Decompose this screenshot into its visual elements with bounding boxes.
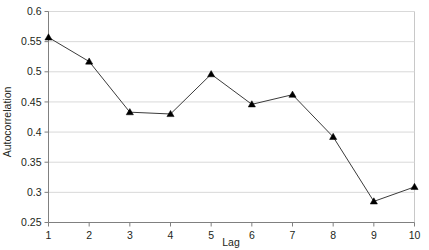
x-tick-label: 2 bbox=[86, 229, 92, 241]
x-tick-label: 1 bbox=[46, 229, 52, 241]
chart-canvas: 0.250.30.350.40.450.50.550.6 12345678910… bbox=[0, 0, 429, 250]
y-tick-label: 0.45 bbox=[21, 96, 42, 108]
y-tick-label: 0.35 bbox=[21, 156, 42, 168]
y-tick-label: 0.55 bbox=[21, 35, 42, 47]
y-tick-label: 0.25 bbox=[21, 216, 42, 228]
x-tick-label: 9 bbox=[371, 229, 377, 241]
x-tick-label: 4 bbox=[168, 229, 174, 241]
y-tick-label: 0.3 bbox=[27, 186, 42, 198]
chart-background bbox=[0, 0, 429, 250]
x-tick-label: 7 bbox=[290, 229, 296, 241]
y-axis-title: Autocorrelation bbox=[1, 87, 13, 158]
x-tick-label: 10 bbox=[409, 229, 421, 241]
x-tick-label: 8 bbox=[330, 229, 336, 241]
y-tick-label: 0.5 bbox=[27, 65, 42, 77]
x-tick-label: 6 bbox=[249, 229, 255, 241]
y-tick-label: 0.4 bbox=[27, 126, 42, 138]
x-axis-title: Lag bbox=[222, 236, 240, 248]
x-tick-label: 3 bbox=[127, 229, 133, 241]
autocorrelation-line-chart: 0.250.30.350.40.450.50.550.6 12345678910… bbox=[0, 0, 429, 250]
x-tick-label: 5 bbox=[208, 229, 214, 241]
y-tick-label: 0.6 bbox=[27, 5, 42, 17]
